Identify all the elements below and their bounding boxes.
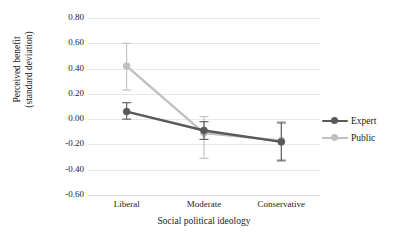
- data-point-marker: [123, 108, 130, 115]
- legend-item-expert: Expert: [322, 112, 376, 129]
- y-axis-title-line-1: Perceived benefit: [12, 0, 24, 145]
- data-point-marker: [123, 63, 130, 70]
- legend-label-expert: Expert: [351, 116, 376, 126]
- data-point-marker: [278, 139, 285, 146]
- y-axis-title: Perceived benefit (standard deviation): [12, 0, 35, 145]
- legend-label-public: Public: [351, 133, 375, 143]
- series-public: [122, 43, 286, 159]
- legend-marker-expert-icon: [322, 116, 348, 126]
- chart-legend: Expert Public: [322, 112, 376, 146]
- data-series-layer: [88, 18, 320, 195]
- x-axis-tick-label: Moderate: [187, 199, 221, 209]
- gridline: [88, 195, 320, 196]
- data-point-marker: [201, 127, 208, 134]
- plot-area: [88, 18, 320, 195]
- legend-dot-expert: [331, 117, 338, 124]
- legend-marker-public-icon: [322, 133, 348, 143]
- legend-dot-public: [331, 134, 338, 141]
- x-axis-title: Social political ideology: [88, 216, 320, 226]
- legend-item-public: Public: [322, 129, 376, 146]
- x-axis-tick-label: Conservative: [258, 199, 306, 209]
- x-axis-tick-label: Liberal: [114, 199, 140, 209]
- y-axis-title-line-2: (standard deviation): [23, 0, 35, 145]
- chart-figure: Perceived benefit (standard deviation) 0…: [0, 0, 400, 250]
